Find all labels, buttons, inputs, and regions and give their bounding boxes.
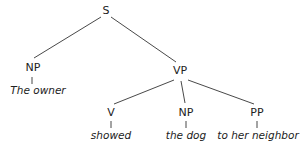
node-v: V — [107, 107, 115, 119]
leaf-subject: The owner — [10, 84, 65, 96]
leaf-object: the dog — [166, 129, 206, 141]
edge-vp-v — [114, 80, 174, 104]
node-np-subject: NP — [26, 62, 41, 74]
edge-vp-pp — [188, 80, 254, 104]
leaf-verb: showed — [91, 129, 131, 141]
edge-s-vp — [111, 17, 176, 62]
node-pp: PP — [250, 107, 263, 119]
leaf-prep-phrase: to her neighbor — [217, 129, 298, 141]
edge-s-np — [34, 17, 101, 58]
node-np-object: NP — [179, 107, 194, 119]
tree-edges — [0, 0, 305, 150]
edge-vp-np — [181, 81, 185, 103]
node-s: S — [103, 5, 110, 17]
node-vp: VP — [173, 65, 187, 77]
